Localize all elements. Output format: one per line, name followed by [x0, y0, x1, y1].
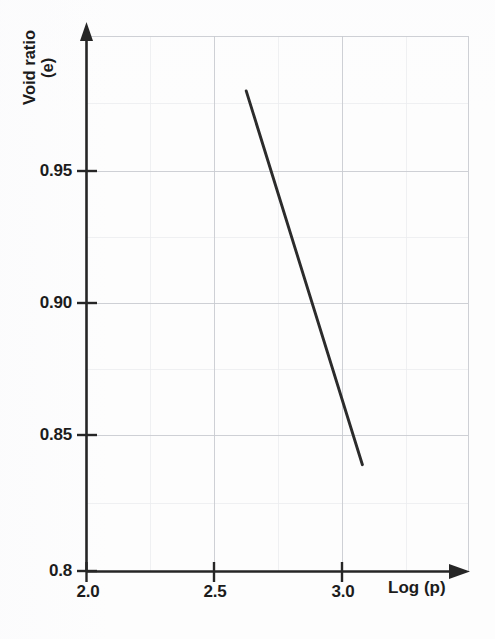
y-axis-arrowhead [80, 22, 93, 41]
x-tick-label-2.0: 2.0 [76, 582, 99, 602]
x-axis-arrowhead [449, 564, 470, 579]
x-tick-label-3.0: 3.0 [331, 582, 354, 602]
y-tick-label-0.95: 0.95 [10, 161, 72, 181]
data-series-compression-line [246, 91, 362, 465]
x-tick-label-2.5: 2.5 [203, 582, 226, 602]
y-tick-label-0.90: 0.90 [10, 293, 72, 313]
y-tick-label-0.85: 0.85 [10, 425, 72, 445]
y-axis-title: Void ratio (e) [20, 30, 76, 105]
y-axis-title-line2: (e) [38, 30, 56, 105]
grid-major-group [87, 36, 468, 571]
x-axis-title: Log (p) [388, 578, 446, 598]
chart-figure: Void ratio (e) Log (p) 0.95 0.90 0.85 0.… [0, 0, 495, 639]
y-tick-label-0.8: 0.8 [10, 561, 72, 581]
y-axis-title-line1: Void ratio [20, 30, 38, 105]
grid-minor-group [87, 36, 468, 571]
